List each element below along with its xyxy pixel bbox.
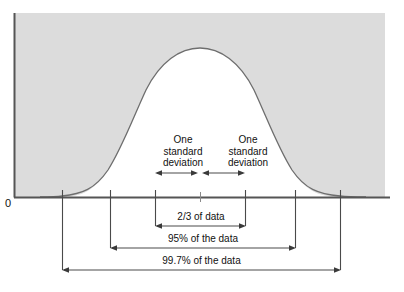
normal-distribution-figure: 0 One standard deviation One standard de… [0,0,404,292]
one-standard-deviation-label-right: One standard deviation [213,134,283,169]
band-2sigma-arrowhead-left [110,245,117,251]
axis-origin-label: 0 [5,198,11,210]
ninety-five-percent-label: 95% of the data [110,233,296,245]
one-standard-deviation-label-left: One standard deviation [148,134,218,169]
two-thirds-of-data-label: 2/3 of data [155,211,247,223]
ninety-nine-point-seven-percent-label: 99.7% of the data [62,255,341,267]
clipped-caption-sliver [0,286,404,292]
